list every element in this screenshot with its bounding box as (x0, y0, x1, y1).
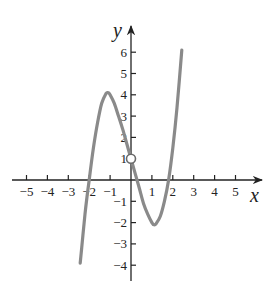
x-tick-label: −4 (40, 184, 54, 199)
y-tick-label: −4 (113, 258, 127, 273)
y-tick-label: 5 (121, 66, 128, 81)
x-tick-label: 2 (170, 184, 177, 199)
y-axis-title: y (111, 19, 122, 42)
function-graph: −5−4−3−2−112345 −4−3−2−1123456 x y (0, 0, 279, 287)
y-tick-label: −1 (113, 194, 127, 209)
y-tick-label: −2 (113, 215, 127, 230)
x-axis-title: x (249, 184, 259, 206)
open-circle-marker (127, 154, 136, 163)
y-tick-label: −3 (113, 236, 127, 251)
x-axis-ticks: −5−4−3−2−112345 (20, 175, 239, 199)
x-tick-label: 4 (211, 184, 218, 199)
x-tick-label: 5 (232, 184, 239, 199)
x-tick-label: −5 (20, 184, 34, 199)
x-tick-label: 3 (190, 184, 197, 199)
x-tick-label: −3 (61, 184, 75, 199)
y-tick-label: 4 (121, 87, 128, 102)
y-tick-label: 6 (121, 45, 128, 60)
x-tick-label: 1 (149, 184, 156, 199)
